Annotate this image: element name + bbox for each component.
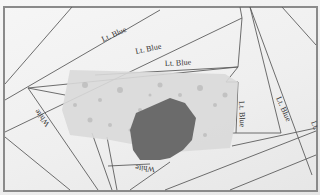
pattern-photo: Lt. Blue Lt. Blue Lt. Blue Lt. Blue Lt. … (0, 0, 320, 195)
label-lt-blue-1: Lt. Blue (100, 25, 128, 44)
pattern-lines: Lt. Blue Lt. Blue Lt. Blue Lt. Blue Lt. … (0, 0, 320, 195)
label-lt-blue-4: Lt. Blue (237, 101, 247, 128)
label-lt-blue-5: Lt. Blue (274, 95, 293, 123)
label-lt-blue-2: Lt. Blue (135, 42, 163, 56)
label-lt-blue-3: Lt. Blue (165, 58, 192, 68)
label-white-2: White (134, 163, 155, 174)
